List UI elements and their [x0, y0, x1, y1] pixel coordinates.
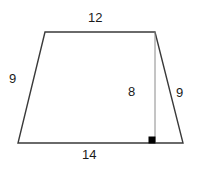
label-top-side: 12	[88, 11, 102, 24]
right-angle-marker-icon	[149, 137, 156, 144]
label-bottom-side: 14	[82, 148, 96, 161]
label-left-side: 9	[9, 72, 16, 85]
trapezoid-outline	[18, 32, 183, 143]
trapezoid-drawing	[0, 0, 200, 169]
label-right-side: 9	[176, 86, 183, 99]
label-height: 8	[128, 85, 135, 98]
geometry-figure: 12 14 9 9 8	[0, 0, 200, 169]
